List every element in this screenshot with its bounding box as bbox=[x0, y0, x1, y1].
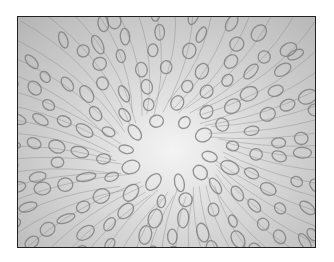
ring-ellipse bbox=[271, 228, 288, 246]
strand bbox=[200, 49, 315, 124]
strand bbox=[224, 157, 315, 207]
ring-ellipse bbox=[207, 176, 224, 196]
ring-ellipse bbox=[115, 200, 137, 221]
ring-ellipse bbox=[91, 186, 112, 206]
ring-ellipse bbox=[218, 158, 241, 177]
ring-ellipse bbox=[18, 137, 22, 150]
ring-ellipse bbox=[18, 216, 22, 231]
ring-ellipse bbox=[148, 44, 158, 57]
ring-ellipse bbox=[222, 96, 243, 117]
ring-ellipse bbox=[38, 69, 52, 84]
ring-ellipse bbox=[222, 52, 241, 71]
strand bbox=[18, 132, 112, 157]
ring-ellipse bbox=[227, 214, 239, 229]
ring-ellipse bbox=[118, 144, 134, 155]
ring-ellipse bbox=[180, 79, 195, 94]
ring-ellipse bbox=[293, 147, 311, 158]
ring-ellipse bbox=[305, 227, 315, 243]
ring-ellipse bbox=[18, 180, 27, 194]
ring-ellipse bbox=[186, 17, 202, 26]
ring-ellipse bbox=[195, 222, 211, 244]
ring-ellipse bbox=[272, 201, 288, 217]
ring-ellipse bbox=[238, 84, 260, 104]
ring-ellipse bbox=[213, 116, 231, 134]
strand bbox=[215, 185, 298, 247]
ring-ellipse bbox=[74, 222, 97, 243]
ring-ellipse bbox=[101, 125, 117, 138]
strand bbox=[18, 98, 118, 148]
ring-ellipse bbox=[77, 83, 97, 105]
ring-ellipse bbox=[227, 34, 247, 54]
ring-ellipse bbox=[278, 97, 296, 113]
ring-ellipse bbox=[149, 114, 164, 128]
ring-ellipse bbox=[173, 173, 186, 193]
ring-ellipse bbox=[167, 246, 179, 247]
ring-ellipse bbox=[176, 114, 192, 131]
ring-ellipse bbox=[51, 157, 64, 168]
ring-ellipse bbox=[147, 245, 160, 247]
ring-ellipse bbox=[91, 55, 109, 72]
ring-ellipse bbox=[296, 87, 315, 107]
ring-ellipse bbox=[270, 149, 288, 164]
ring-ellipse bbox=[151, 17, 161, 22]
ring-ellipse bbox=[143, 171, 165, 194]
ring-ellipse bbox=[101, 215, 117, 233]
ring-ellipse bbox=[25, 78, 44, 97]
ring-ellipse bbox=[87, 104, 104, 123]
tubular-pattern bbox=[18, 17, 315, 247]
ring-ellipse bbox=[286, 47, 305, 62]
ring-ellipse bbox=[197, 103, 215, 121]
ring-ellipse bbox=[307, 176, 315, 197]
strand bbox=[18, 48, 119, 134]
ring-ellipse bbox=[18, 111, 28, 127]
ring-ellipse bbox=[75, 43, 92, 60]
ring-ellipse bbox=[23, 234, 41, 247]
strand bbox=[217, 170, 315, 247]
ring-ellipse bbox=[120, 158, 141, 175]
ring-ellipse bbox=[74, 199, 91, 215]
ring-ellipse bbox=[103, 237, 117, 247]
ring-ellipse bbox=[56, 212, 76, 226]
ring-ellipse bbox=[135, 62, 148, 78]
strand bbox=[143, 196, 174, 247]
strand bbox=[209, 98, 315, 134]
ring-ellipse bbox=[179, 193, 192, 207]
ring-ellipse bbox=[207, 202, 220, 217]
ring-ellipse bbox=[198, 82, 216, 100]
ring-ellipse bbox=[177, 208, 189, 228]
ring-ellipse bbox=[23, 53, 41, 71]
ring-ellipse bbox=[193, 126, 213, 145]
strand bbox=[178, 17, 257, 113]
ring-ellipse bbox=[125, 122, 144, 142]
ring-ellipse bbox=[76, 171, 97, 183]
ring-ellipse bbox=[272, 60, 293, 79]
micrograph-image bbox=[17, 16, 316, 248]
ring-ellipse bbox=[167, 229, 177, 244]
ring-ellipse bbox=[255, 216, 271, 232]
ring-ellipse bbox=[308, 103, 315, 116]
ring-ellipse bbox=[59, 75, 76, 94]
ring-ellipse bbox=[249, 148, 263, 161]
ring-ellipse bbox=[95, 75, 111, 91]
ring-ellipse bbox=[289, 175, 304, 189]
ring-ellipse bbox=[25, 136, 42, 151]
ring-ellipse bbox=[190, 162, 210, 182]
strand bbox=[39, 192, 146, 247]
ring-ellipse bbox=[89, 33, 107, 55]
ring-ellipse bbox=[228, 228, 248, 247]
ring-ellipse bbox=[294, 132, 309, 146]
ring-ellipse bbox=[41, 97, 57, 112]
strand bbox=[202, 34, 315, 114]
ring-ellipse bbox=[47, 138, 67, 156]
strand bbox=[163, 17, 193, 112]
ring-ellipse bbox=[120, 181, 142, 204]
strand bbox=[161, 188, 178, 247]
ring-ellipse bbox=[229, 184, 247, 203]
strand bbox=[155, 17, 176, 102]
strand bbox=[39, 17, 130, 124]
ring-ellipse bbox=[117, 106, 133, 123]
ring-ellipse bbox=[243, 166, 261, 182]
ring-ellipse bbox=[201, 149, 219, 163]
ring-ellipse bbox=[271, 138, 285, 148]
ring-ellipse bbox=[220, 72, 236, 88]
